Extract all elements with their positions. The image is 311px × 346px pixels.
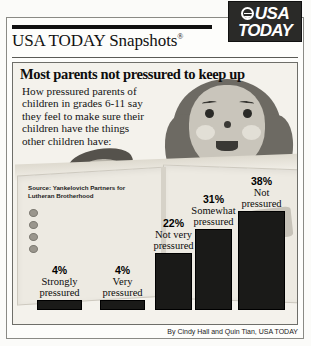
finger-left-2 (29, 221, 38, 229)
mother-mouth (216, 141, 238, 151)
page-title: USA TODAY Snapshots® (12, 29, 220, 51)
usa-today-logo: USA TODAY (228, 1, 302, 42)
finger-right-2 (240, 224, 250, 233)
logo-bottom-row: TODAY (238, 22, 292, 39)
description-text: How pressured parents of children in gra… (22, 85, 148, 147)
logo-top-row: USA (241, 6, 289, 22)
source-attribution: Source: Yankelovich Partners for Luthera… (28, 184, 148, 199)
finger-left-4 (29, 245, 38, 253)
finger-left-1 (29, 209, 38, 217)
finger-left-3 (29, 233, 38, 241)
globe-icon (241, 7, 254, 20)
book-spine (161, 167, 166, 299)
finger-right-1 (242, 213, 252, 222)
byline: By Cindy Hall and Quin Tian, USA TODAY (14, 328, 298, 335)
logo-usa-text: USA (255, 6, 289, 22)
masthead-rule-bottom (12, 57, 298, 58)
mother-nose (224, 121, 231, 128)
mother-eye-left (205, 109, 214, 118)
snapshots-title-text: USA TODAY Snapshots (12, 31, 177, 50)
finger-right-3 (239, 235, 249, 244)
headline: Most parents not pressured to keep up (20, 66, 292, 83)
mother-eye-right (243, 109, 252, 118)
masthead: USA TODAY Snapshots® (12, 25, 220, 51)
mother-cheek-left (196, 125, 215, 140)
registered-mark: ® (177, 32, 183, 41)
logo-today-text: TODAY (238, 22, 292, 39)
mother-cheek-right (242, 125, 261, 140)
